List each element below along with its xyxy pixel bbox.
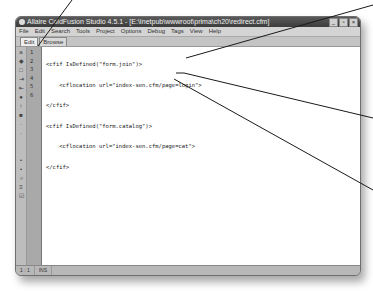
blank-icon[interactable] bbox=[18, 139, 24, 145]
window-title: Allaire ColdFusion Studio 4.5.1 - [E:\In… bbox=[27, 17, 269, 27]
menu-search[interactable]: Search bbox=[51, 27, 70, 36]
code-line: </cfif> bbox=[46, 163, 360, 172]
editor-area: a ◆ □ ⇥ ⇤ ● ↑ ■ · · • • ⌕ ≡ ☑ 1 2 3 4 5 … bbox=[16, 47, 360, 266]
status-message bbox=[52, 266, 360, 275]
line-number: 2 bbox=[27, 57, 41, 66]
menu-bar: File Edit Search Tools Project Options D… bbox=[16, 27, 360, 37]
menu-edit[interactable]: Edit bbox=[35, 27, 45, 36]
line-number: 5 bbox=[27, 82, 41, 91]
line-number: 3 bbox=[27, 65, 41, 74]
line-number-gutter: 1 2 3 4 5 6 bbox=[27, 47, 42, 266]
menu-project[interactable]: Project bbox=[96, 27, 115, 36]
search-icon[interactable]: ⌕ bbox=[18, 175, 24, 181]
app-window: Allaire ColdFusion Studio 4.5.1 - [E:\In… bbox=[15, 16, 361, 276]
cursor-position: 1 : 1 bbox=[16, 266, 35, 275]
editor-tabs: Edit Browse bbox=[16, 37, 360, 47]
tab-browse[interactable]: Browse bbox=[39, 37, 67, 46]
box-icon[interactable]: □ bbox=[18, 67, 24, 73]
code-line: <cflocation url="index-sen.cfm/page=cat"… bbox=[46, 142, 360, 151]
menu-tools[interactable]: Tools bbox=[76, 27, 90, 36]
validate-icon[interactable]: ☑ bbox=[18, 193, 24, 199]
menu-debug[interactable]: Debug bbox=[147, 27, 165, 36]
code-line: <cfif IsDefined("form.catalog")> bbox=[46, 122, 360, 131]
tag-icon[interactable]: a bbox=[18, 49, 24, 55]
bookmark-icon[interactable]: ◆ bbox=[18, 58, 24, 64]
minimize-button[interactable]: _ bbox=[329, 18, 338, 27]
dot-icon[interactable]: · bbox=[18, 121, 24, 127]
dot-icon[interactable]: · bbox=[18, 130, 24, 136]
marker-icon[interactable]: ↑ bbox=[18, 103, 24, 109]
window-controls: _ ▫ × bbox=[329, 18, 358, 27]
block-icon[interactable]: ■ bbox=[18, 112, 24, 118]
menu-view[interactable]: View bbox=[190, 27, 203, 36]
arrow-icon[interactable]: • bbox=[18, 166, 24, 172]
editor-toolbar: a ◆ □ ⇥ ⇤ ● ↑ ■ · · • • ⌕ ≡ ☑ bbox=[16, 47, 27, 266]
tab-edit[interactable]: Edit bbox=[20, 37, 38, 46]
menu-options[interactable]: Options bbox=[121, 27, 142, 36]
indent-icon[interactable]: ⇥ bbox=[18, 76, 24, 82]
menu-help[interactable]: Help bbox=[209, 27, 221, 36]
line-number: 6 bbox=[27, 91, 41, 100]
code-editor[interactable]: <cfif IsDefined("form.join")> <cflocatio… bbox=[42, 47, 360, 266]
line-number: 4 bbox=[27, 74, 41, 83]
status-bar: 1 : 1 INS bbox=[16, 265, 360, 275]
app-icon bbox=[19, 19, 25, 25]
insert-mode: INS bbox=[35, 266, 52, 275]
list-icon[interactable]: ≡ bbox=[18, 184, 24, 190]
outdent-icon[interactable]: ⇤ bbox=[18, 85, 24, 91]
code-line: </cfif> bbox=[46, 101, 360, 110]
menu-file[interactable]: File bbox=[19, 27, 29, 36]
code-line: <cfif IsDefined("form.join")> bbox=[46, 60, 360, 69]
comment-icon[interactable]: ● bbox=[18, 94, 24, 100]
close-button[interactable]: × bbox=[349, 18, 358, 27]
restore-button[interactable]: ▫ bbox=[339, 18, 348, 27]
blank-icon[interactable] bbox=[18, 148, 24, 154]
arrow-icon[interactable]: • bbox=[18, 157, 24, 163]
menu-tags[interactable]: Tags bbox=[171, 27, 184, 36]
title-bar[interactable]: Allaire ColdFusion Studio 4.5.1 - [E:\In… bbox=[16, 17, 360, 27]
line-number: 1 bbox=[27, 48, 41, 57]
code-line: <cflocation url="index-sen.cfm/page=logi… bbox=[46, 81, 360, 90]
